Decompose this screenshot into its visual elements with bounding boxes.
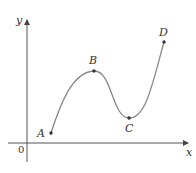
point-c [127,116,130,119]
y-axis-label: y [15,14,23,27]
graph-svg: y x 0 A B C D [0,0,196,173]
point-a-label: A [36,127,45,140]
x-axis-label: x [186,146,193,159]
point-d-label: D [158,26,168,39]
point-b-label: B [88,54,97,67]
point-d [162,40,165,43]
point-b [92,69,95,72]
point-a [49,131,52,134]
function-curve [51,42,164,133]
graph-diagram: y x 0 A B C D [0,0,196,173]
point-c-label: C [125,122,134,135]
origin-label: 0 [18,144,24,155]
